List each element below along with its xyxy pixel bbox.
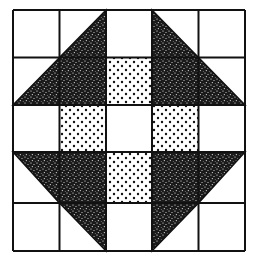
quilt-cell-dark bbox=[152, 152, 199, 203]
quilt-block-diagram bbox=[0, 0, 259, 262]
quilt-cell-white bbox=[199, 203, 246, 251]
quilt-cell-tri-tr bbox=[13, 152, 60, 203]
quilt-cell-white bbox=[199, 105, 246, 152]
quilt-cell-white bbox=[106, 10, 152, 58]
quilt-cell-dots bbox=[60, 105, 107, 152]
quilt-cell-tri-bl bbox=[199, 58, 246, 106]
quilt-cell-tri-br bbox=[60, 10, 107, 58]
quilt-cell-tri-br bbox=[13, 58, 60, 106]
quilt-cell-dots bbox=[152, 105, 199, 152]
quilt-cell-tri-tl bbox=[199, 152, 246, 203]
quilt-cell-white bbox=[106, 105, 152, 152]
quilt-cell-white bbox=[13, 10, 60, 58]
quilt-cell-dots bbox=[106, 58, 152, 106]
quilt-cell-tri-tr bbox=[60, 203, 107, 251]
quilt-cell-white bbox=[13, 105, 60, 152]
cells-layer bbox=[13, 10, 245, 251]
quilt-cell-dark bbox=[60, 152, 107, 203]
quilt-cell-dark bbox=[60, 58, 107, 106]
quilt-cell-white bbox=[13, 203, 60, 251]
quilt-cell-tri-tl bbox=[152, 203, 199, 251]
quilt-cell-white bbox=[106, 203, 152, 251]
quilt-cell-white bbox=[199, 10, 246, 58]
quilt-cell-dots bbox=[106, 152, 152, 203]
quilt-cell-tri-bl bbox=[152, 10, 199, 58]
quilt-cell-dark bbox=[152, 58, 199, 106]
